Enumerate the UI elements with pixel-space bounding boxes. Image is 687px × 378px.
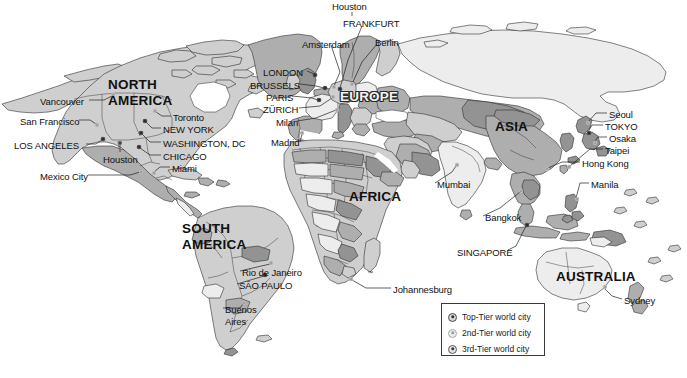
continent-label-line1: AUSTRALIA [556, 270, 636, 284]
continent-label-line1: SOUTH [182, 222, 246, 236]
legend-item-3rd-tier[interactable]: 3rd-Tier world city [448, 341, 538, 357]
city-label-houston[interactable]: Houston [332, 2, 367, 12]
city-label-osaka[interactable]: Osaka [609, 134, 636, 144]
city-label-london[interactable]: LONDON [263, 68, 303, 78]
city-label-mumbai[interactable]: Mumbai [437, 180, 470, 190]
second-tier-marker-icon [448, 329, 457, 338]
city-label-vancouver[interactable]: Vancouver [40, 97, 84, 107]
city-label-chicago[interactable]: CHICAGO [163, 152, 207, 162]
city-label-rio-de-janeiro[interactable]: Rio de Janeiro [242, 268, 302, 278]
map-legend: Top-Tier world city 2nd-Tier world city … [441, 303, 545, 356]
continent-label-europe: EUROPE [340, 90, 398, 104]
city-label-frankfurt[interactable]: FRANKFURT [343, 19, 399, 29]
city-label-los-angeles[interactable]: LOS ANGELES [14, 141, 79, 151]
continent-label-line2: AMERICA [182, 238, 246, 252]
city-label-buenos[interactable]: Buenos [225, 305, 257, 315]
city-label-houston[interactable]: Houston [103, 155, 138, 165]
city-label-new-york[interactable]: NEW YORK [163, 125, 214, 135]
city-label-bangkok[interactable]: Bangkok [485, 213, 521, 223]
city-label-johannesburg[interactable]: Johannesburg [393, 285, 452, 295]
legend-item-top-tier[interactable]: Top-Tier world city [448, 309, 538, 325]
continent-label-africa: AFRICA [349, 190, 401, 204]
top-tier-marker-icon [448, 313, 457, 322]
city-label-z-rich[interactable]: ZÜRICH [263, 105, 298, 115]
city-label-aires[interactable]: Aires [225, 317, 246, 327]
legend-label-2nd-tier: 2nd-Tier world city [462, 329, 531, 338]
city-label-brussels[interactable]: BRUSSELS [250, 81, 300, 91]
city-label-paris[interactable]: PARIS [266, 93, 293, 103]
city-label-berlin[interactable]: Berlin [375, 38, 399, 48]
legend-item-2nd-tier[interactable]: 2nd-Tier world city [448, 325, 538, 341]
city-label-milan[interactable]: Milan [276, 118, 298, 128]
city-label-s-o-paulo[interactable]: SÃO PAULO [239, 281, 292, 291]
third-tier-marker-icon [448, 345, 457, 354]
city-label-madrid[interactable]: Madrid [271, 138, 299, 148]
city-label-washington-dc[interactable]: WASHINGTON, DC [163, 139, 246, 149]
continent-label-australia: AUSTRALIA [556, 270, 636, 284]
continent-label-line1: AFRICA [349, 190, 401, 204]
city-label-sydney[interactable]: Sydney [624, 296, 655, 306]
continent-label-line1: NORTH [108, 78, 172, 92]
city-label-toronto[interactable]: Toronto [173, 113, 204, 123]
continent-label-line1: ASIA [495, 120, 528, 134]
continent-label-south-america: SOUTHAMERICA [182, 222, 246, 251]
city-label-mexico-city[interactable]: Mexico City [40, 172, 88, 182]
city-label-amsterdam[interactable]: Amsterdam [302, 40, 350, 50]
legend-label-3rd-tier: 3rd-Tier world city [462, 345, 529, 354]
continent-label-line1: EUROPE [340, 90, 398, 104]
trademark-mark: ™ [367, 270, 373, 276]
continent-label-line2: AMERICA [108, 94, 172, 108]
city-label-manila[interactable]: Manila [591, 180, 618, 190]
city-label-san-francisco[interactable]: San Francisco [20, 117, 79, 127]
map-graphic: .l1{fill:#ededed;stroke:#2f2f2f;stroke-w… [0, 0, 687, 378]
city-label-miami[interactable]: Miami [172, 164, 197, 174]
city-label-singapore[interactable]: SINGAPORE [457, 248, 513, 258]
city-label-hong-kong[interactable]: Hong Kong [582, 159, 629, 169]
city-label-taipei[interactable]: Taipei [605, 146, 629, 156]
continent-label-north-america: NORTHAMERICA [108, 78, 172, 107]
city-label-tokyo[interactable]: TOKYO [605, 122, 638, 132]
city-label-seoul[interactable]: Seoul [609, 110, 633, 120]
continent-label-asia: ASIA [495, 120, 528, 134]
legend-label-top-tier: Top-Tier world city [462, 313, 531, 322]
world-map: .l1{fill:#ededed;stroke:#2f2f2f;stroke-w… [0, 0, 687, 378]
